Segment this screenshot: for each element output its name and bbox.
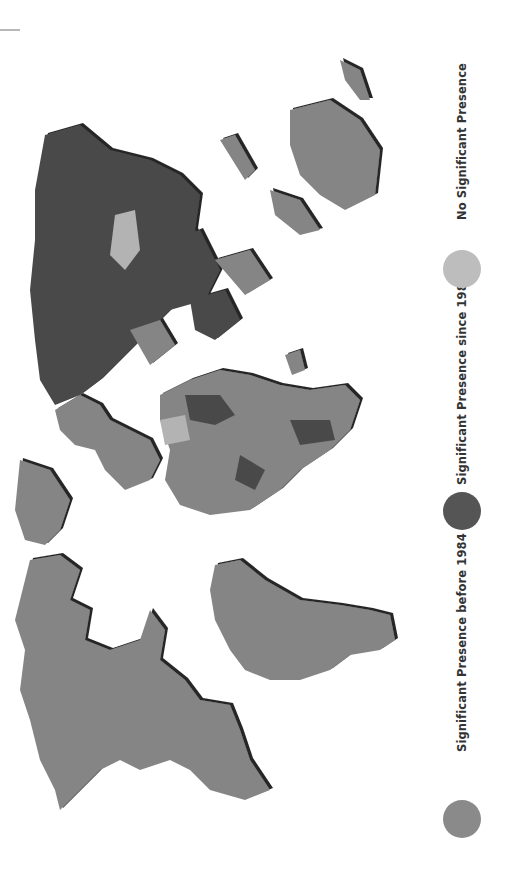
africa-none: [160, 415, 190, 445]
madagascar: [285, 350, 305, 375]
indonesia: [270, 190, 320, 235]
legend-swatch-before-1984: [443, 800, 481, 838]
southeast-asia: [215, 250, 270, 295]
legend-swatch-none: [443, 250, 481, 288]
new-zealand: [340, 60, 370, 100]
legend-label-none: No Significant Presence: [455, 63, 469, 220]
japan: [220, 135, 255, 180]
legend-swatch-since-1984: [443, 492, 481, 530]
africa: [160, 370, 360, 515]
australia: [290, 100, 380, 210]
legend-label-since-1984: Significant Presence since 1984: [455, 275, 469, 485]
legend-label-before-1984: Significant Presence before 1984: [455, 533, 469, 752]
greenland: [15, 460, 70, 545]
south-america: [210, 560, 395, 680]
world-map: [0, 0, 505, 886]
europe: [55, 395, 160, 490]
